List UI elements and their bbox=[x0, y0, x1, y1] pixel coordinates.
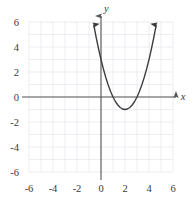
x-tick-label: 4 bbox=[146, 183, 152, 194]
graph-canvas: x y -6 -4 -2 0 2 4 6 6 4 2 0 -2 -4 -6 bbox=[0, 0, 195, 206]
x-tick-label: -6 bbox=[25, 183, 34, 194]
parabola-graph-figure: x y -6 -4 -2 0 2 4 6 6 4 2 0 -2 -4 -6 bbox=[0, 0, 195, 206]
y-tick-label: -6 bbox=[10, 167, 19, 178]
y-tick-label: -4 bbox=[10, 142, 19, 153]
y-tick-label: 0 bbox=[14, 92, 19, 103]
y-tick-label: 4 bbox=[14, 42, 20, 53]
x-tick-label: 6 bbox=[170, 183, 175, 194]
x-tick-label: 2 bbox=[122, 183, 127, 194]
y-tick-label: -2 bbox=[10, 117, 19, 128]
x-axis-label: x bbox=[180, 91, 186, 102]
y-axis-label: y bbox=[103, 3, 109, 14]
x-tick-label: -2 bbox=[73, 183, 82, 194]
y-tick-labels: 6 4 2 0 -2 -4 -6 bbox=[10, 17, 20, 178]
x-tick-label: 0 bbox=[98, 183, 103, 194]
x-tick-labels: -6 -4 -2 0 2 4 6 bbox=[25, 183, 176, 194]
y-tick-label: 2 bbox=[14, 67, 19, 78]
x-tick-label: -4 bbox=[49, 183, 58, 194]
y-tick-label: 6 bbox=[14, 17, 19, 28]
